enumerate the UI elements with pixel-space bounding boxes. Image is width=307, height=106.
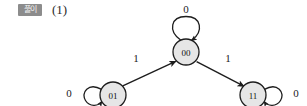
edge-01-to-00: 1 (123, 52, 176, 86)
state-node-11[interactable]: 11 (240, 82, 266, 106)
self-loop-00-label: 0 (183, 3, 189, 15)
fsm-svg: 1 1 0 0 0 00 (0, 0, 307, 106)
state-node-11-label: 11 (249, 91, 258, 101)
self-loop-00: 0 (173, 3, 200, 40)
state-node-00[interactable]: 00 (173, 39, 199, 65)
self-loop-00-path (173, 17, 200, 41)
self-loop-11-label: 0 (293, 87, 299, 99)
state-node-01-label: 01 (109, 91, 118, 101)
edge-00-to-11: 1 (197, 52, 244, 86)
self-loop-01-path (84, 87, 102, 105)
state-node-01[interactable]: 01 (100, 82, 126, 106)
self-loop-11-path (264, 87, 282, 105)
self-loop-01-label: 0 (66, 87, 72, 99)
edge-01-to-00-path (123, 61, 176, 85)
state-node-00-label: 00 (182, 48, 192, 58)
self-loop-01: 0 (66, 87, 102, 105)
edge-01-to-00-label: 1 (133, 52, 139, 64)
edge-00-to-11-path (197, 62, 244, 87)
page-root: 풀이 (1) 1 1 (0, 0, 307, 106)
self-loop-11: 0 (264, 87, 299, 105)
edge-00-to-11-label: 1 (225, 52, 231, 64)
state-diagram: 1 1 0 0 0 00 (0, 0, 307, 106)
